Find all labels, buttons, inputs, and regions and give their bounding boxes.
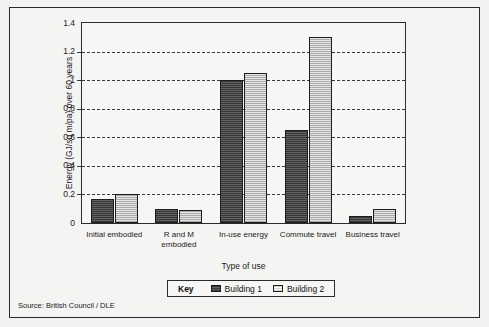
y-axis-tick-label: 0 [41,219,75,228]
bar-group [211,23,276,223]
x-axis-title: Type of use [81,261,406,271]
bar-building-1 [285,130,308,223]
chart-legend: Key Building 1 Building 2 [167,280,335,297]
plot-area [81,22,406,224]
source-note: Source: British Council / DLE [18,301,115,310]
chart-figure: Energy (GJ/sq m/pa) over 60 years 1.41.2… [0,0,489,327]
x-axis-category-label: Initial embodied [82,230,147,240]
legend-entry-building-2: Building 2 [273,284,324,294]
bar-building-1 [220,80,243,223]
y-axis-tick-label: 0.6 [41,133,75,142]
legend-label-building-1: Building 1 [225,284,262,294]
bars-layer [82,23,405,223]
x-axis-category-label: Commute travel [276,230,341,240]
bar-group [340,23,405,223]
bar-building-2 [309,37,332,223]
bar-building-1 [91,199,114,223]
legend-swatch-building-2-icon [273,285,283,292]
y-axis-tick-label: 0.8 [41,104,75,113]
bar-group [147,23,212,223]
legend-key-label: Key [178,284,194,294]
bar-building-1 [349,216,372,223]
x-axis-category-label: R and M embodied [147,230,212,249]
y-axis-tick-label: 1 [41,76,75,85]
bar-group [82,23,147,223]
bar-building-1 [155,209,178,223]
y-axis-tick-label: 1.4 [41,19,75,28]
legend-entry-building-1: Building 1 [211,284,262,294]
y-axis-tick-label: 0.2 [41,190,75,199]
bar-building-2 [115,194,138,223]
bar-building-2 [244,73,267,223]
bar-group [276,23,341,223]
legend-swatch-building-1-icon [211,285,221,292]
y-axis-tick-label: 1.2 [41,47,75,56]
x-axis-category-label: Business travel [340,230,405,240]
y-axis-tick-label: 0.4 [41,161,75,170]
bar-building-2 [179,210,202,223]
legend-label-building-2: Building 2 [287,284,324,294]
x-axis-category-label: In-use energy [211,230,276,240]
bar-building-2 [373,209,396,223]
